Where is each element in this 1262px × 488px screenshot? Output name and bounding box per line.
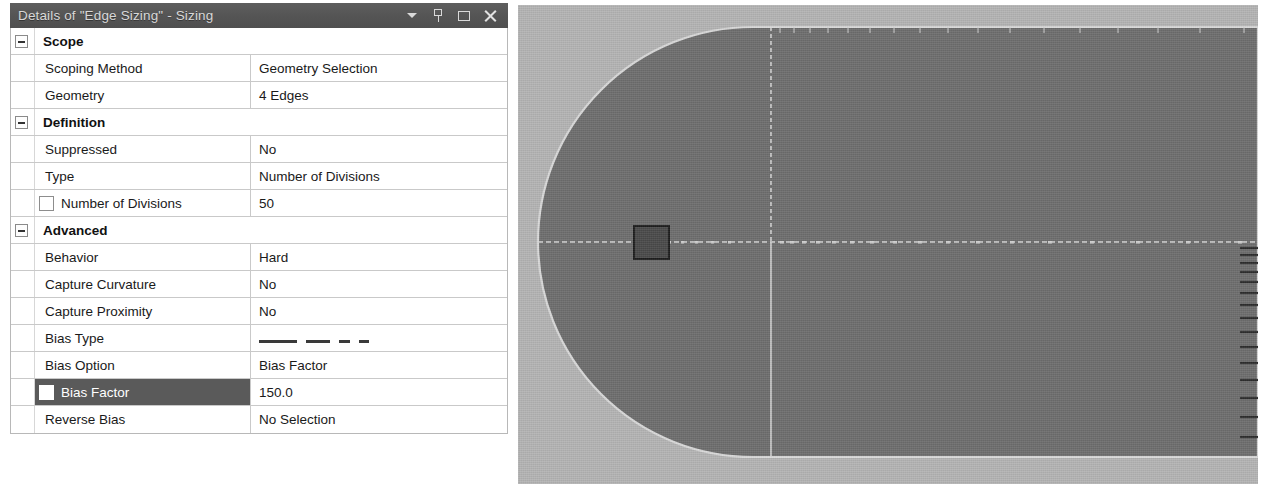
collapse-minus-icon[interactable] bbox=[15, 224, 28, 237]
property-value[interactable]: No bbox=[251, 136, 507, 162]
table-row[interactable]: Bias Option Bias Factor bbox=[11, 352, 507, 379]
table-row[interactable]: Number of Divisions 50 bbox=[11, 190, 507, 217]
tree-gutter bbox=[11, 379, 35, 405]
property-value[interactable]: Geometry Selection bbox=[251, 55, 507, 81]
tree-gutter bbox=[11, 298, 35, 324]
property-value[interactable]: Bias Factor bbox=[251, 352, 507, 378]
group-label: Definition bbox=[34, 109, 507, 135]
tree-gutter bbox=[11, 217, 34, 243]
table-row[interactable]: Capture Proximity No bbox=[11, 298, 507, 325]
mesh-graphics-viewport[interactable] bbox=[518, 5, 1258, 484]
property-group-row[interactable]: Scope bbox=[11, 28, 507, 55]
table-row[interactable]: Capture Curvature No bbox=[11, 271, 507, 298]
table-row[interactable]: Scoping Method Geometry Selection bbox=[11, 55, 507, 82]
tree-gutter bbox=[11, 325, 35, 351]
property-value[interactable]: Number of Divisions bbox=[251, 163, 507, 189]
tree-gutter bbox=[11, 28, 34, 54]
tree-gutter bbox=[11, 190, 35, 216]
close-icon[interactable] bbox=[483, 8, 498, 23]
property-value[interactable]: 50 bbox=[251, 190, 507, 216]
tree-gutter bbox=[11, 406, 35, 433]
details-panel: Details of "Edge Sizing" - Sizing Scope … bbox=[10, 3, 508, 475]
tree-gutter bbox=[11, 163, 35, 189]
property-value[interactable]: No bbox=[251, 271, 507, 297]
property-value[interactable]: Hard bbox=[251, 244, 507, 270]
tree-gutter bbox=[11, 82, 35, 108]
table-row-selected[interactable]: Bias Factor 150.0 bbox=[11, 379, 507, 406]
tree-gutter bbox=[11, 109, 34, 135]
application-window: Details of "Edge Sizing" - Sizing Scope … bbox=[0, 0, 1262, 488]
panel-titlebar[interactable]: Details of "Edge Sizing" - Sizing bbox=[10, 3, 508, 28]
table-row[interactable]: Bias Type bbox=[11, 325, 507, 352]
property-name: Suppressed bbox=[35, 136, 251, 162]
tree-gutter bbox=[11, 352, 35, 378]
table-row[interactable]: Geometry 4 Edges bbox=[11, 82, 507, 109]
group-label: Scope bbox=[34, 28, 507, 54]
property-name-cell: Number of Divisions bbox=[35, 190, 251, 216]
tree-gutter bbox=[11, 244, 35, 270]
dropdown-caret-icon[interactable] bbox=[405, 8, 420, 23]
table-row[interactable]: Reverse Bias No Selection bbox=[11, 406, 507, 433]
property-grid: Scope Scoping Method Geometry Selection … bbox=[10, 28, 508, 434]
bias-factor-checkbox[interactable] bbox=[39, 385, 54, 400]
property-value[interactable]: No bbox=[251, 298, 507, 324]
maximize-restore-icon[interactable] bbox=[457, 8, 472, 23]
property-name: Type bbox=[35, 163, 251, 189]
number-of-divisions-checkbox[interactable] bbox=[39, 196, 54, 211]
property-name: Capture Curvature bbox=[35, 271, 251, 297]
collapse-minus-icon[interactable] bbox=[15, 116, 28, 129]
property-name: Reverse Bias bbox=[35, 406, 251, 433]
auto-hide-pin-icon[interactable] bbox=[431, 8, 446, 23]
table-row[interactable]: Behavior Hard bbox=[11, 244, 507, 271]
property-name: Number of Divisions bbox=[61, 196, 182, 211]
bias-type-dashes-icon bbox=[259, 333, 369, 343]
property-group-row[interactable]: Definition bbox=[11, 109, 507, 136]
titlebar-buttons bbox=[405, 8, 504, 23]
property-name: Geometry bbox=[35, 82, 251, 108]
tree-gutter bbox=[11, 55, 35, 81]
panel-title: Details of "Edge Sizing" - Sizing bbox=[18, 8, 405, 23]
property-name: Behavior bbox=[35, 244, 251, 270]
property-group-row[interactable]: Advanced bbox=[11, 217, 507, 244]
property-name: Bias Type bbox=[35, 325, 251, 351]
mesh-drawing bbox=[518, 5, 1258, 484]
square-body[interactable] bbox=[634, 226, 669, 259]
property-value-graphic[interactable] bbox=[251, 325, 507, 351]
collapse-minus-icon[interactable] bbox=[15, 35, 28, 48]
property-name: Scoping Method bbox=[35, 55, 251, 81]
property-value[interactable]: 4 Edges bbox=[251, 82, 507, 108]
tree-gutter bbox=[11, 136, 35, 162]
table-row[interactable]: Suppressed No bbox=[11, 136, 507, 163]
property-name-cell: Bias Factor bbox=[35, 379, 251, 405]
tree-gutter bbox=[11, 271, 35, 297]
property-value[interactable]: 150.0 bbox=[251, 379, 507, 405]
group-label: Advanced bbox=[34, 217, 507, 243]
property-name: Capture Proximity bbox=[35, 298, 251, 324]
property-value[interactable]: No Selection bbox=[251, 406, 507, 433]
property-name: Bias Option bbox=[35, 352, 251, 378]
table-row[interactable]: Type Number of Divisions bbox=[11, 163, 507, 190]
property-name: Bias Factor bbox=[61, 385, 129, 400]
